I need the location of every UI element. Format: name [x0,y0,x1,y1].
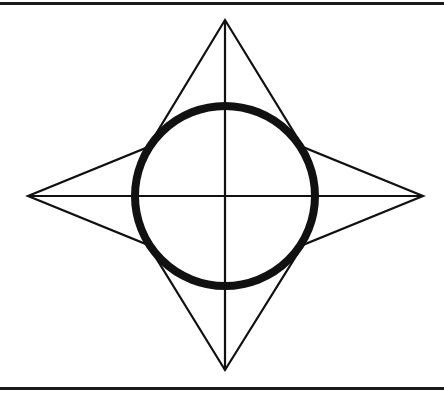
bottom-border-rule [0,387,444,390]
drawing-canvas [0,0,444,399]
geometric-figure [0,0,444,399]
